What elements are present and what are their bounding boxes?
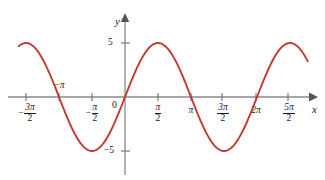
x-tick-label-neg-3pi-2: −3π2 (10, 103, 44, 124)
denominator: 2 (24, 114, 36, 124)
denominator: 2 (155, 114, 162, 124)
y-tick-label-neg5: −5 (104, 146, 114, 156)
x-axis-label: x (312, 104, 317, 115)
x-tick-label-2pi: 2π (245, 106, 267, 116)
y-axis-label: y (115, 16, 120, 27)
x-tick-label-pi: π (181, 106, 201, 116)
pi-text: π (189, 105, 194, 115)
sine-graph-figure: y x 5 −5 0 −3π2 −π −π2 π2 π 3π2 2π 5π2 (0, 0, 325, 180)
two-pi-text: 2π (251, 105, 261, 115)
denominator: 2 (92, 114, 99, 124)
x-tick-label-neg-pi-2: −π2 (77, 103, 107, 124)
y-tick-label-5: 5 (108, 38, 113, 48)
x-tick-label-pi-2: π2 (146, 103, 170, 124)
x-tick-label-3pi-2: 3π2 (209, 103, 237, 124)
x-tick-label-neg-pi: −π (44, 81, 74, 91)
denominator: 2 (283, 114, 295, 124)
x-axis (8, 93, 318, 102)
origin-label: 0 (112, 101, 117, 111)
x-tick-label-5pi-2: 5π2 (275, 103, 303, 124)
neg-pi-text: −π (53, 80, 64, 90)
denominator: 2 (217, 114, 229, 124)
